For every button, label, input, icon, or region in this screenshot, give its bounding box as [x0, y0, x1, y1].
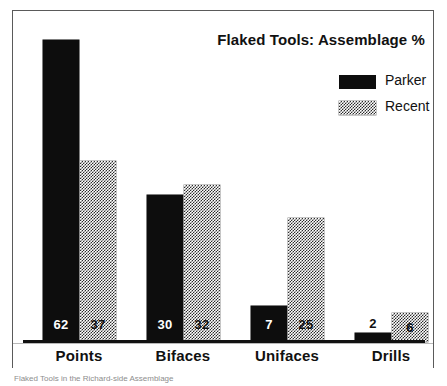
plot-area: Flaked Tools: Assemblage % Parker Recent…: [13, 11, 433, 367]
bar-fill: [80, 161, 116, 342]
bar-value-label: 7: [251, 318, 287, 331]
category-label-bifaces: Bifaces: [133, 347, 233, 364]
bar-value-label: 62: [43, 318, 79, 331]
bar-value-label: 37: [80, 318, 116, 331]
bar-bifaces-parker: 30: [147, 195, 183, 342]
bar-value-label: 6: [392, 321, 428, 334]
bar-unifaces-parker: 7: [251, 306, 287, 342]
bar-group-bifaces: 30 32: [135, 38, 235, 342]
bar-unifaces-recent: 25: [288, 218, 324, 342]
bar-group-points: 62 37: [31, 38, 131, 342]
chart-frame: Flaked Tools: Assemblage % Parker Recent…: [12, 10, 434, 368]
figure-root: Flaked Tools: Assemblage % Parker Recent…: [0, 0, 447, 386]
bar-drills-recent: 6: [392, 313, 428, 342]
bar-bifaces-recent: 32: [184, 185, 220, 342]
category-label-drills: Drills: [341, 347, 441, 364]
figure-caption: Flaked Tools in the Richard-side Assembl…: [14, 374, 434, 383]
bar-value-label: 30: [147, 318, 183, 331]
category-label-points: Points: [29, 347, 129, 364]
bar-group-unifaces: 7 25: [239, 38, 339, 342]
bar-points-parker: 62: [43, 40, 79, 342]
bar-fill: [43, 40, 79, 342]
category-label-unifaces: Unifaces: [237, 347, 337, 364]
bar-value-label: 25: [288, 318, 324, 331]
bar-group-drills: 2 6: [343, 38, 443, 342]
bar-points-recent: 37: [80, 161, 116, 342]
bar-value-label: 2: [355, 317, 391, 330]
bar-value-label: 32: [184, 318, 220, 331]
